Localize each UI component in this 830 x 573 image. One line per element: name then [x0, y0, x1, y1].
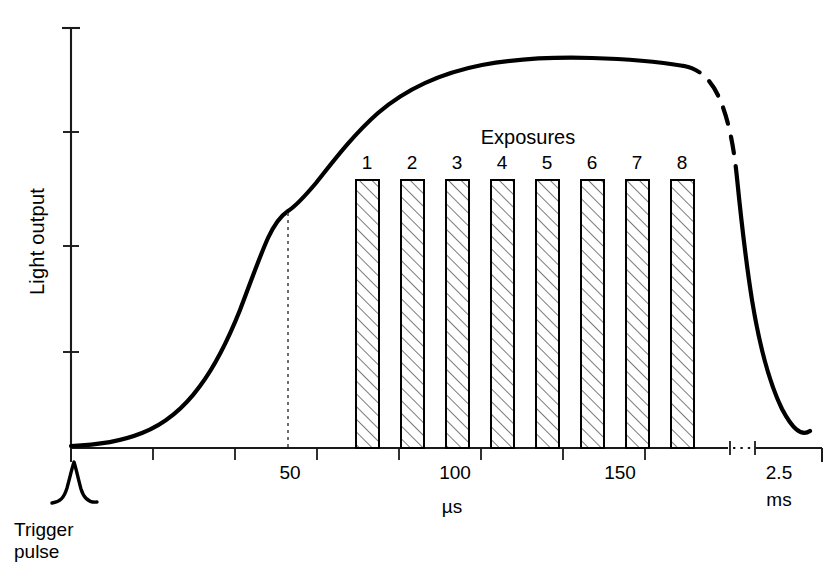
trigger-pulse-label-line1: Trigger: [14, 519, 73, 541]
y-axis: [62, 28, 80, 448]
chart-figure: Light output 50 100 150 2.5 µs ms Exposu…: [0, 0, 830, 573]
exposure-bar: [671, 180, 694, 448]
exposure-bar-label: 1: [352, 152, 382, 174]
exposure-bar-label: 6: [577, 152, 607, 174]
exposure-bar: [491, 180, 514, 448]
light-output-curve: [71, 58, 810, 446]
exposure-bar-label: 8: [667, 152, 697, 174]
exposure-bar: [446, 180, 469, 448]
x-tick-label-50: 50: [268, 462, 312, 484]
exposure-bar-label: 3: [442, 152, 472, 174]
exposure-bar: [536, 180, 559, 448]
exposure-bar: [356, 180, 379, 448]
x-tick-label-2-5: 2.5: [753, 462, 805, 484]
exposure-bar-label: 2: [397, 152, 427, 174]
trigger-pulse-label: Trigger pulse: [14, 519, 73, 564]
x-axis-ticks: [71, 448, 822, 462]
exposure-bars: [356, 180, 694, 448]
exposure-bar: [581, 180, 604, 448]
exposure-bar: [401, 180, 424, 448]
trigger-pulse-label-line2: pulse: [14, 541, 73, 563]
exposure-bar-label: 5: [532, 152, 562, 174]
x-axis-unit-ms: ms: [753, 489, 805, 511]
x-axis-unit-us: µs: [426, 496, 478, 518]
exposure-bar: [626, 180, 649, 448]
exposure-bar-label: 4: [487, 152, 517, 174]
x-tick-label-150: 150: [594, 462, 646, 484]
x-tick-label-100: 100: [429, 462, 481, 484]
exposure-bar-label: 7: [622, 152, 652, 174]
exposures-title: Exposures: [468, 126, 588, 149]
chart-canvas: [0, 0, 830, 573]
trigger-pulse-icon: [52, 462, 97, 503]
y-axis-title: Light output: [26, 142, 49, 342]
